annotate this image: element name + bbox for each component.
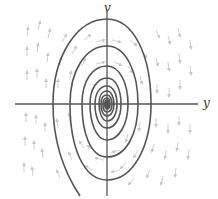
spiral-trajectory: [53, 19, 151, 196]
v-axis-label: v: [104, 1, 111, 15]
phase-plane-svg: [0, 0, 218, 199]
phase-portrait: v y: [0, 0, 218, 199]
y-axis-label: y: [203, 96, 210, 110]
